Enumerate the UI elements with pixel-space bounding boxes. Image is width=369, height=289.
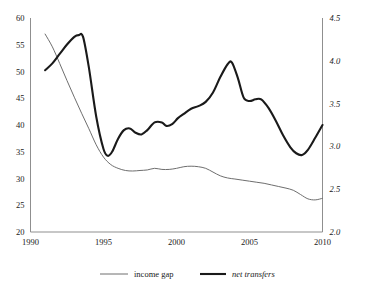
chart-container: 202530354045505560 2.02.53.03.54.04.5 19… bbox=[0, 0, 369, 289]
left-axis-tick-label: 60 bbox=[16, 13, 25, 23]
left-axis: 202530354045505560 bbox=[16, 13, 31, 237]
x-axis: 19901995200020052010 bbox=[22, 232, 331, 247]
right-axis-tick-label: 2.5 bbox=[330, 184, 341, 194]
x-axis-tick-label: 2010 bbox=[314, 237, 331, 247]
right-axis-tick-label: 3.5 bbox=[329, 99, 341, 109]
right-axis-tick-label: 4.0 bbox=[330, 56, 341, 66]
legend-label-net-transfers: net transfers bbox=[232, 269, 275, 279]
x-axis-tick-label: 1990 bbox=[22, 237, 39, 247]
x-axis-tick-label: 2005 bbox=[241, 237, 258, 247]
left-axis-tick-label: 35 bbox=[16, 147, 25, 157]
series-line-net-transfers bbox=[45, 34, 322, 156]
legend-label-income-gap: income gap bbox=[134, 269, 173, 279]
x-axis-tick-label: 2000 bbox=[168, 237, 185, 247]
chart-legend: income gapnet transfers bbox=[100, 269, 275, 279]
left-axis-tick-label: 25 bbox=[16, 200, 25, 210]
left-axis-tick-label: 55 bbox=[16, 40, 25, 50]
series-lines bbox=[45, 34, 322, 200]
right-axis-tick-label: 2.0 bbox=[330, 227, 341, 237]
right-axis: 2.02.53.03.54.04.5 bbox=[323, 13, 341, 237]
right-axis-tick-label: 4.5 bbox=[330, 13, 341, 23]
legend-item-income-gap: income gap bbox=[100, 269, 173, 279]
left-axis-tick-label: 20 bbox=[16, 227, 25, 237]
x-axis-tick-label: 1995 bbox=[95, 237, 112, 247]
legend-item-net-transfers: net transfers bbox=[200, 269, 275, 279]
left-axis-tick-label: 50 bbox=[16, 67, 25, 77]
line-chart: 202530354045505560 2.02.53.03.54.04.5 19… bbox=[0, 0, 369, 289]
right-axis-tick-label: 3.0 bbox=[329, 141, 341, 151]
left-axis-tick-label: 30 bbox=[16, 174, 25, 184]
left-axis-tick-label: 45 bbox=[16, 93, 25, 103]
left-axis-tick-label: 40 bbox=[16, 120, 25, 130]
